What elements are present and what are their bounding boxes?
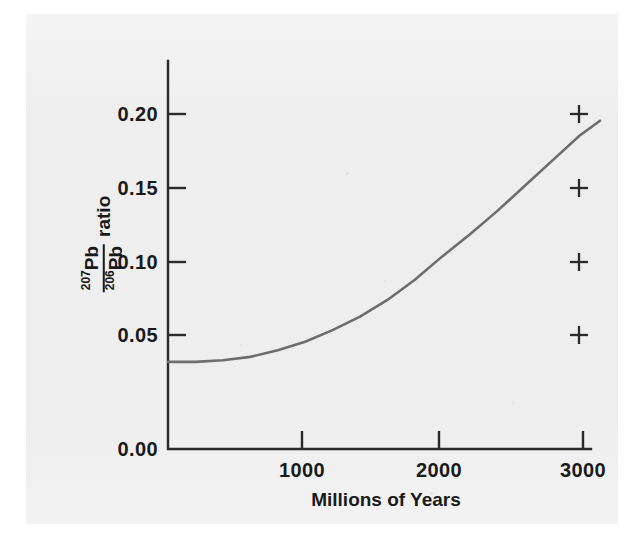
x-tick-label-3000: 3000 [560, 459, 606, 481]
y-tick-label-0.05: 0.05 [117, 324, 158, 346]
y-tick-label-0.10: 0.10 [117, 251, 158, 273]
scanned-figure-panel: 207Pb 206Pb ratio 0.20 0.15 0.10 [26, 14, 618, 524]
isotope-growth-curve [168, 121, 600, 362]
x-tick-label-1000: 1000 [279, 459, 325, 481]
plus-marker-0.15 [570, 179, 588, 197]
y-tick-label-0.20: 0.20 [117, 103, 158, 125]
x-axis-title: Millions of Years [311, 489, 461, 510]
figure-page: 207Pb 206Pb ratio 0.20 0.15 0.10 [0, 0, 642, 542]
plus-marker-0.20 [570, 105, 588, 123]
axis-spines [168, 61, 591, 449]
plus-marker-0.10 [570, 253, 588, 271]
y-tick-label-0.15: 0.15 [117, 177, 158, 199]
x-tick-label-2000: 2000 [416, 459, 462, 481]
plus-marker-0.05 [570, 326, 588, 344]
plot-area: 0.20 0.15 0.10 0.05 0.00 1000 2000 3000 … [26, 14, 618, 524]
y-tick-label-0.00: 0.00 [117, 438, 158, 460]
